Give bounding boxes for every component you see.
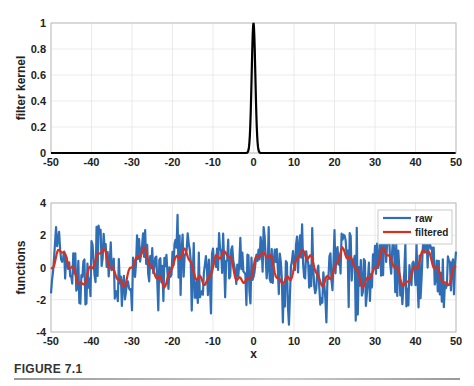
x-tick-label: -20 xyxy=(165,156,181,168)
kernel-plot: -50-40-30-20-100102030405000.20.40.60.81… xyxy=(14,17,462,168)
x-tick-label: 50 xyxy=(450,335,462,347)
y-tick-label: 0.6 xyxy=(31,69,46,81)
x-tick-label: 50 xyxy=(450,156,462,168)
x-tick-label: 10 xyxy=(288,335,300,347)
y-tick-label: 0 xyxy=(40,262,46,274)
x-axis-label: x xyxy=(250,347,257,361)
caption-rule xyxy=(14,378,460,380)
x-tick-label: -40 xyxy=(84,335,100,347)
y-tick-label: 0.8 xyxy=(31,43,46,55)
y-axis-label: functions xyxy=(14,240,28,294)
x-tick-label: -40 xyxy=(84,156,100,168)
x-tick-label: 0 xyxy=(250,156,256,168)
y-tick-label: 0 xyxy=(40,147,46,159)
x-tick-label: -10 xyxy=(205,335,221,347)
functions-plot: -50-40-30-20-1001020304050-4-2024functio… xyxy=(14,197,462,361)
y-tick-label: 0.2 xyxy=(31,121,46,133)
x-tick-label: -10 xyxy=(205,156,221,168)
y-tick-label: 4 xyxy=(40,197,47,209)
y-axis-label: filter kernel xyxy=(14,56,28,121)
y-tick-label: 1 xyxy=(40,17,46,29)
legend: rawfiltered xyxy=(378,210,452,244)
legend-label: raw xyxy=(415,213,432,224)
y-tick-label: -2 xyxy=(36,294,46,306)
x-tick-label: 20 xyxy=(328,156,340,168)
x-tick-label: 10 xyxy=(288,156,300,168)
figure: -50-40-30-20-100102030405000.20.40.60.81… xyxy=(0,0,474,386)
y-tick-label: 2 xyxy=(40,229,46,241)
x-tick-label: 40 xyxy=(409,335,421,347)
y-tick-label: 0.4 xyxy=(31,95,47,107)
figure-caption: FIGURE 7.1 xyxy=(14,362,82,376)
x-tick-label: -30 xyxy=(124,156,140,168)
x-tick-label: -30 xyxy=(124,335,140,347)
x-tick-label: 0 xyxy=(250,335,256,347)
legend-label: filtered xyxy=(415,227,448,238)
x-tick-label: 30 xyxy=(369,335,381,347)
x-tick-label: 30 xyxy=(369,156,381,168)
y-tick-label: -4 xyxy=(36,326,47,338)
x-tick-label: 20 xyxy=(328,335,340,347)
x-tick-label: 40 xyxy=(409,156,421,168)
x-tick-label: -20 xyxy=(165,335,181,347)
